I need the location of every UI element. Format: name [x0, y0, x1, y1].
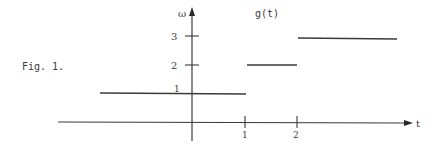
x-tick-label-2: 2 [293, 130, 299, 140]
function-label: g(t) [255, 8, 279, 19]
segment-value-3 [298, 38, 397, 39]
y-axis-arrow-icon [189, 7, 195, 16]
y-tick-label-3: 3 [171, 31, 177, 42]
step-function-diagram: Fig. 1. ω 3 2 1 t 1 2 g(t) [0, 0, 434, 152]
y-tick-label-2: 2 [171, 60, 177, 71]
figure-caption: Fig. 1. [22, 61, 64, 72]
x-axis-arrow-icon [404, 120, 413, 126]
segment-value-1 [100, 93, 246, 94]
x-axis [58, 122, 406, 123]
y-tick-label-1: 1 [174, 84, 180, 94]
y-axis-label: ω [178, 8, 186, 19]
x-axis-label: t [416, 118, 420, 129]
x-tick-label-1: 1 [242, 130, 248, 140]
